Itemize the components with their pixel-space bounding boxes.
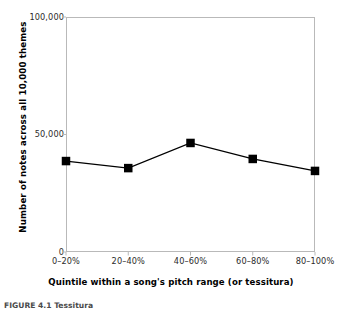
data-point-marker bbox=[186, 139, 195, 148]
y-axis-tick-label: 0 bbox=[8, 247, 64, 257]
x-axis-tick-label: 80–100% bbox=[285, 256, 342, 266]
data-point-marker bbox=[62, 157, 71, 166]
y-axis-tick-label: 100,000 bbox=[8, 12, 64, 22]
x-axis-tick-label: 60–80% bbox=[223, 256, 283, 266]
data-point-marker bbox=[249, 155, 258, 164]
x-axis-tick-label: 40–60% bbox=[161, 256, 221, 266]
data-point-marker bbox=[311, 167, 320, 176]
x-axis-tick-labels: 0–20%20–40%40–60%60–80%80–100% bbox=[66, 256, 315, 270]
x-axis-tick-label: 0–20% bbox=[36, 256, 96, 266]
y-axis-tick-label: 50,000 bbox=[8, 129, 64, 139]
figure-caption: FIGURE 4.1 Tessitura bbox=[4, 301, 342, 311]
x-axis-title: Quintile within a song's pitch range (or… bbox=[0, 277, 342, 287]
plot-area bbox=[66, 17, 315, 252]
figure-chart: Number of notes across all 10,000 themes… bbox=[0, 0, 342, 311]
x-axis-tick-label: 20–40% bbox=[98, 256, 158, 266]
data-point-marker bbox=[124, 164, 133, 173]
